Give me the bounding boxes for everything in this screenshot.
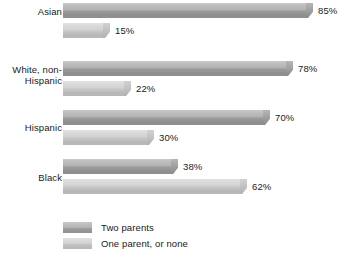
value-label-black-two-parents: 38% — [183, 161, 202, 173]
category-label-hispanic: Hispanic — [0, 122, 62, 133]
bar-shelf — [63, 190, 241, 194]
bar-asian-one-parent — [63, 23, 110, 38]
legend-swatch-icon — [63, 222, 92, 233]
legend-item-two-parents: Two parents — [63, 219, 188, 235]
bar-shelf — [63, 141, 148, 145]
bar-hispanic-one-parent — [63, 130, 154, 145]
category-label-black: Black — [0, 172, 62, 183]
category-label-line: Asian — [0, 6, 62, 17]
legend-label: One parent, or none — [101, 238, 188, 249]
value-label-hispanic-one-parent: 30% — [159, 132, 178, 144]
value-label-white-two-parents: 78% — [298, 63, 317, 75]
chart-legend: Two parents One parent, or none — [63, 219, 188, 251]
category-label-line: Black — [0, 172, 62, 183]
legend-label: Two parents — [101, 222, 154, 233]
legend-item-one-parent: One parent, or none — [63, 235, 188, 251]
bar-shelf — [63, 121, 264, 125]
bar-end-cap — [263, 110, 270, 125]
bar-shelf — [63, 72, 287, 76]
bar-black-two-parents — [63, 159, 178, 174]
category-label-line: White, non- — [0, 64, 62, 75]
bar-white-one-parent — [63, 81, 131, 96]
bar-end-cap — [124, 81, 131, 96]
bar-end-cap — [306, 3, 313, 18]
value-label-asian-two-parents: 85% — [318, 5, 337, 17]
value-label-black-one-parent: 62% — [252, 181, 271, 193]
bar-shelf — [63, 14, 307, 18]
value-label-white-one-parent: 22% — [136, 83, 155, 95]
bar-shelf — [63, 92, 125, 96]
value-label-asian-one-parent: 15% — [115, 25, 134, 37]
bar-asian-two-parents — [63, 3, 313, 18]
category-label-white-non-hispanic: White, non- Hispanic — [0, 64, 62, 86]
value-label-hispanic-two-parents: 70% — [275, 112, 294, 124]
bar-shelf — [63, 34, 104, 38]
legend-swatch-icon — [63, 238, 92, 249]
bar-end-cap — [103, 23, 110, 38]
bar-black-one-parent — [63, 179, 247, 194]
bar-end-cap — [286, 61, 293, 76]
category-label-asian: Asian — [0, 6, 62, 17]
bar-chart: Asian White, non- Hispanic Hispanic Blac… — [0, 0, 348, 259]
bar-shelf — [63, 170, 172, 174]
bar-hispanic-two-parents — [63, 110, 270, 125]
bar-white-two-parents — [63, 61, 293, 76]
bar-end-cap — [171, 159, 178, 174]
category-label-line: Hispanic — [0, 122, 62, 133]
bar-end-cap — [147, 130, 154, 145]
category-label-line: Hispanic — [0, 75, 62, 86]
bar-end-cap — [240, 179, 247, 194]
